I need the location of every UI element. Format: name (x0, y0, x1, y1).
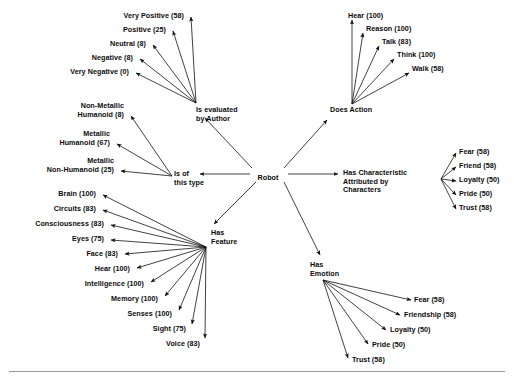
edge-has-characteristic-attributed-by-characters-to-trust-58 (441, 179, 456, 209)
leaf-node-character-attributed-friend-58: Friend (58) (459, 162, 496, 171)
leaf-node-emotions-pride-50: Pride (50) (372, 341, 405, 350)
leaf-node-emotions-fear-58: Fear (58) (414, 296, 444, 305)
leaf-node-character-attributed-trust-58: Trust (58) (459, 204, 492, 213)
edge-is-evaluated-by-author-to-very-negative-0 (136, 73, 196, 103)
edge-has-feature-to-brain-100 (103, 195, 206, 247)
leaf-node-robot-types-metallic-non-humanoid-25: Metallic Non-Humanoid (25) (47, 157, 114, 174)
leaf-node-actions-walk-58: Walk (58) (412, 65, 444, 74)
leaf-node-actions-think-100: Think (100) (397, 51, 436, 60)
relation-node-is-of-this-type: Is of this type (174, 170, 204, 187)
leaf-node-author-evaluation-very-positive-58: Very Positive (58) (124, 12, 184, 21)
leaf-node-features-brain-100: Brain (100) (58, 190, 96, 199)
edge-robot-to-has-emotion (284, 182, 320, 255)
leaf-node-actions-talk-83: Talk (83) (382, 38, 411, 47)
edge-has-emotion-to-pride-50 (323, 280, 368, 344)
leaf-node-actions-reason-100: Reason (100) (366, 25, 411, 34)
leaf-node-features-eyes-75: Eyes (75) (72, 235, 104, 244)
leaf-node-character-attributed-fear-58: Fear (58) (459, 148, 489, 157)
edge-has-feature-to-intelligence-100 (151, 247, 206, 282)
edge-has-feature-to-circuits-83 (103, 210, 206, 247)
edge-robot-to-is-evaluated-by-author (205, 118, 252, 168)
leaf-node-author-evaluation-positive-25: Positive (25) (123, 26, 166, 35)
edge-is-of-this-type-to-non-metallic-humanoid-8 (131, 116, 172, 176)
edge-does-action-to-reason-100 (352, 33, 363, 104)
leaf-node-features-voice-83: Voice (83) (166, 340, 200, 349)
edge-has-feature-to-senses-100 (179, 247, 206, 310)
leaf-node-emotions-friendship-58: Friendship (58) (404, 311, 456, 320)
edge-has-characteristic-attributed-by-characters-to-fear-58 (441, 153, 456, 179)
leaf-node-actions-hear-100: Hear (100) (348, 12, 383, 21)
leaf-node-author-evaluation-negative-8: Negative (8) (92, 54, 133, 63)
leaf-node-character-attributed-pride-50: Pride (50) (459, 190, 492, 199)
leaf-node-features-intelligence-100: Intelligence (100) (85, 280, 144, 289)
edge-has-feature-to-memory-100 (165, 247, 206, 296)
leaf-node-emotions-loyalty-50: Loyalty (50) (390, 326, 431, 335)
leaf-node-features-memory-100: Memory (100) (111, 295, 158, 304)
edge-has-characteristic-attributed-by-characters-to-pride-50 (441, 179, 456, 195)
page-rule (9, 371, 505, 372)
leaf-node-features-face-83: Face (83) (86, 250, 118, 259)
edge-has-characteristic-attributed-by-characters-to-friend-58 (441, 167, 456, 179)
edge-has-feature-to-voice-83 (205, 247, 206, 338)
leaf-node-features-sight-75: Sight (75) (153, 325, 186, 334)
edge-has-characteristic-attributed-by-characters-to-loyalty-50 (441, 179, 456, 181)
leaf-node-robot-types-non-metallic-humanoid-8: Non-Metallic Humanoid (8) (77, 102, 124, 119)
edge-robot-to-has-feature (214, 182, 256, 224)
relation-node-has-characteristic-attributed-by-characters: Has Characteristic Attributed by Charact… (343, 169, 407, 195)
leaf-node-features-circuits-83: Circuits (83) (54, 205, 96, 214)
edge-does-action-to-talk-83 (352, 46, 379, 104)
concept-map-figure: RobotIs evaluated by AuthorDoes ActionIs… (0, 0, 514, 382)
leaf-node-robot-types-metallic-humanoid-67: Metallic Humanoid (67) (59, 130, 110, 147)
leaf-node-emotions-trust-58: Trust (58) (352, 356, 385, 365)
relation-node-is-evaluated-by-author: Is evaluated by Author (196, 106, 238, 123)
leaf-node-features-consciousness-83: Consciousness (83) (35, 220, 104, 229)
leaf-node-features-hear-100: Hear (100) (95, 265, 130, 274)
center-node-robot: Robot (257, 174, 278, 183)
edge-robot-to-does-action (284, 120, 327, 168)
edge-does-action-to-walk-58 (352, 73, 409, 104)
edge-has-feature-to-sight-75 (192, 247, 206, 324)
leaf-node-author-evaluation-very-negative-0: Very Negative (0) (70, 68, 129, 77)
edge-has-emotion-to-trust-58 (323, 280, 348, 358)
relation-node-does-action: Does Action (330, 106, 372, 115)
leaf-node-character-attributed-loyalty-50: Loyalty (50) (459, 176, 500, 185)
relation-node-has-emotion: Has Emotion (310, 261, 339, 278)
relation-node-has-feature: Has Feature (211, 229, 237, 246)
leaf-node-features-senses-100: Senses (100) (127, 310, 172, 319)
leaf-node-author-evaluation-neutral-8: Neutral (8) (110, 40, 146, 49)
edge-has-emotion-to-friendship-58 (323, 280, 400, 315)
